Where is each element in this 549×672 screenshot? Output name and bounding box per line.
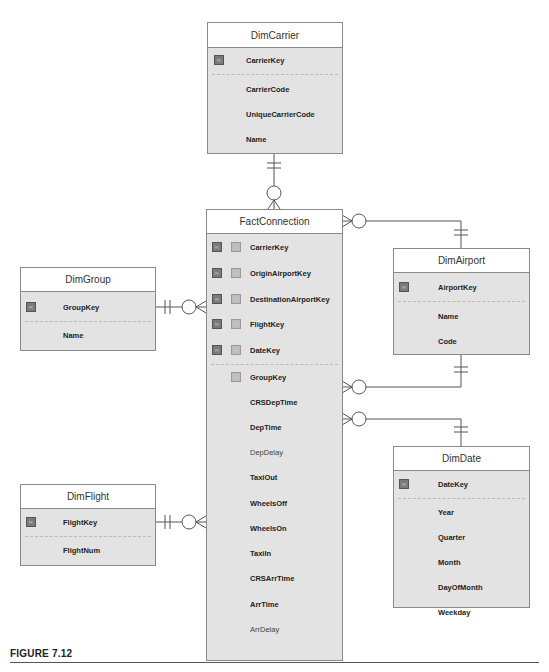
- key-separator: [398, 301, 525, 302]
- primary-key-icon: PK: [214, 55, 224, 65]
- key-separator: [25, 536, 151, 537]
- primary-key-icon: PK: [212, 268, 222, 278]
- entity-dimgroup[interactable]: DimGroup PK GroupKey Name: [20, 267, 156, 351]
- field-label: Name: [246, 135, 266, 144]
- field-label: Code: [438, 337, 457, 346]
- foreign-key-icon: FK: [231, 268, 241, 278]
- field-label: FlightNum: [63, 546, 100, 555]
- field-label: CarrierKey: [250, 243, 288, 252]
- key-separator: [398, 498, 525, 499]
- field-label: TaxiOut: [250, 473, 277, 482]
- field-label: Year: [438, 508, 454, 517]
- field-label: Month: [438, 558, 461, 567]
- field-label: GroupKey: [250, 373, 286, 382]
- key-separator: [25, 321, 151, 322]
- entity-title: DimAirport: [394, 249, 529, 273]
- primary-key-icon: PK: [399, 479, 409, 489]
- foreign-key-icon: FK: [231, 372, 241, 382]
- entity-title: DimCarrier: [208, 23, 342, 48]
- field-label: DateKey: [438, 480, 468, 489]
- field-label: CRSDepTime: [250, 398, 297, 407]
- field-label: DepDelay: [250, 448, 283, 457]
- entity-title: DimDate: [394, 447, 529, 471]
- foreign-key-icon: FK: [231, 345, 241, 355]
- field-label: GroupKey: [63, 303, 99, 312]
- entity-dimairport[interactable]: DimAirport PK AirportKey Name Code: [393, 248, 530, 355]
- entity-title: DimGroup: [21, 268, 155, 292]
- field-label: ArrDelay: [250, 625, 279, 634]
- field-label: DepTime: [250, 423, 282, 432]
- primary-key-icon: PK: [212, 242, 222, 252]
- field-label: Weekday: [438, 608, 470, 617]
- primary-key-icon: PK: [26, 302, 36, 312]
- field-label: ArrTime: [250, 600, 279, 609]
- figure-caption: FIGURE 7.12: [10, 648, 72, 659]
- caption-divider: [10, 662, 539, 663]
- field-label: Quarter: [438, 533, 465, 542]
- primary-key-icon: PK: [212, 294, 222, 304]
- field-label: UniqueCarrierCode: [246, 110, 315, 119]
- field-label: CarrierKey: [246, 56, 284, 65]
- field-label: Name: [438, 312, 458, 321]
- foreign-key-icon: FK: [231, 319, 241, 329]
- key-separator: [212, 74, 338, 75]
- field-label: DayOfMonth: [438, 583, 483, 592]
- entity-factconnection[interactable]: FactConnection PK FK CarrierKey PK FK Or…: [206, 209, 343, 661]
- field-label: AirportKey: [438, 283, 477, 292]
- field-label: FlightKey: [250, 320, 284, 329]
- field-label: TaxiIn: [250, 549, 271, 558]
- entity-title: FactConnection: [207, 210, 342, 234]
- field-label: OriginAirportKey: [250, 269, 311, 278]
- primary-key-icon: PK: [212, 319, 222, 329]
- field-label: Name: [63, 331, 83, 340]
- foreign-key-icon: FK: [231, 242, 241, 252]
- entity-title: DimFlight: [21, 485, 155, 509]
- primary-key-icon: PK: [212, 345, 222, 355]
- entity-dimflight[interactable]: DimFlight PK FlightKey FlightNum: [20, 484, 156, 566]
- field-label: DateKey: [250, 346, 280, 355]
- foreign-key-icon: FK: [231, 294, 241, 304]
- field-label: CRSArrTime: [250, 574, 294, 583]
- field-label: CarrierCode: [246, 85, 289, 94]
- field-label: FlightKey: [63, 518, 97, 527]
- entity-dimdate[interactable]: DimDate PK DateKey Year Quarter Month Da…: [393, 446, 530, 608]
- field-label: WheelsOff: [250, 499, 287, 508]
- field-label: DestinationAirportKey: [250, 295, 330, 304]
- key-separator: [211, 364, 338, 365]
- field-label: WheelsOn: [250, 524, 287, 533]
- entity-dimcarrier[interactable]: DimCarrier PK CarrierKey CarrierCode Uni…: [207, 22, 343, 154]
- primary-key-icon: PK: [26, 517, 36, 527]
- primary-key-icon: PK: [399, 282, 409, 292]
